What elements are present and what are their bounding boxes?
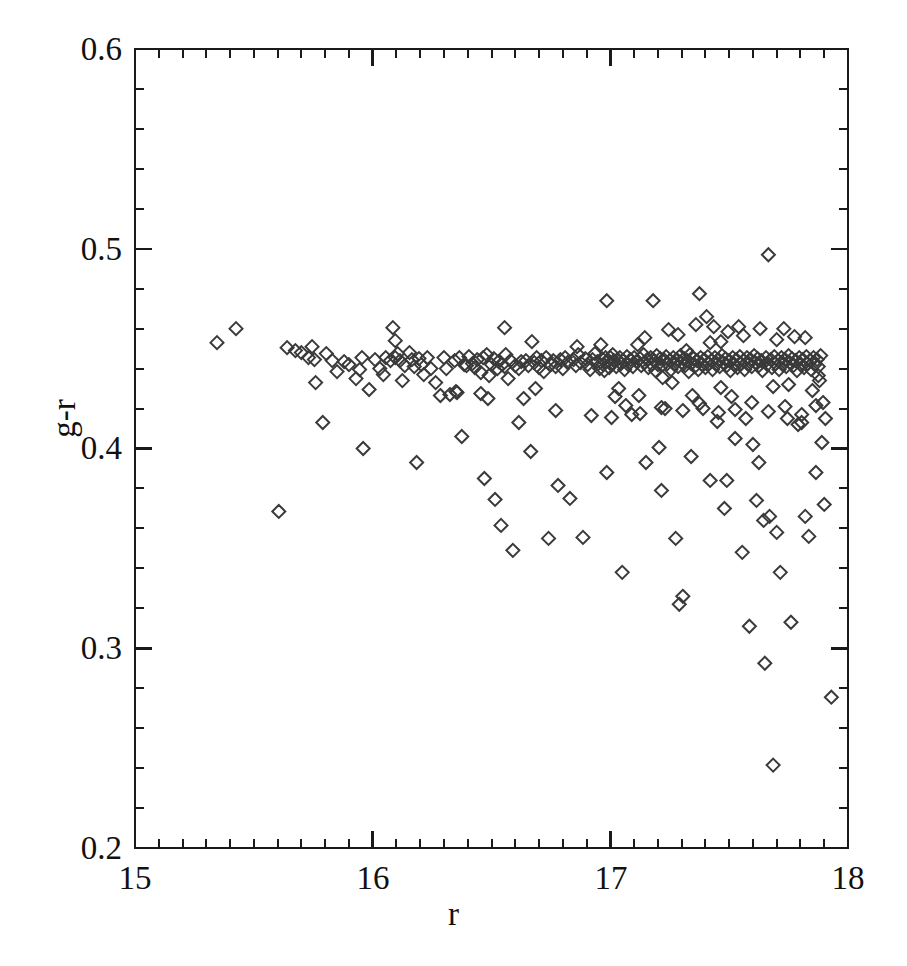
figure-canvas: 0.6 0.5 0.4 0.3 0.2 15 16 17 18 r g-r — [0, 0, 907, 966]
axis-frame — [135, 49, 848, 848]
data-point-markers — [210, 248, 837, 771]
scatter-plot-area — [0, 0, 907, 966]
tick-marks — [135, 49, 848, 848]
